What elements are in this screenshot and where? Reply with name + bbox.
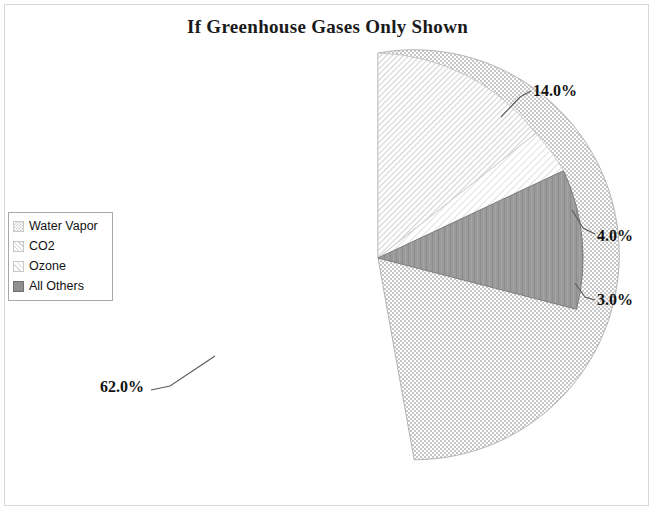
data-label-ozone: 4.0% (597, 227, 633, 245)
legend-label-ozone: Ozone (29, 260, 66, 273)
data-label-all-others: 3.0% (597, 291, 633, 309)
diagonal-hatch-swatch-icon (13, 241, 24, 252)
legend-label-water-vapor: Water Vapor (29, 220, 98, 233)
legend-item-water-vapor[interactable]: Water Vapor (13, 216, 108, 236)
data-label-co2: 14.0% (533, 82, 577, 100)
chart-legend: Water Vapor CO2 Ozone All Others (8, 212, 113, 301)
chart-canvas: If Greenhouse Gases Only Shown (0, 0, 655, 512)
legend-item-ozone[interactable]: Ozone (13, 256, 108, 276)
checkered-swatch-icon (13, 221, 24, 232)
solid-gray-swatch-icon (13, 281, 24, 292)
legend-item-co2[interactable]: CO2 (13, 236, 108, 256)
legend-item-all-others[interactable]: All Others (13, 276, 108, 296)
data-label-water-vapor: 62.0% (100, 378, 144, 396)
light-hatch-swatch-icon (13, 261, 24, 272)
legend-label-all-others: All Others (29, 280, 84, 293)
legend-label-co2: CO2 (29, 240, 55, 253)
leader-line-water-vapor (151, 356, 215, 390)
